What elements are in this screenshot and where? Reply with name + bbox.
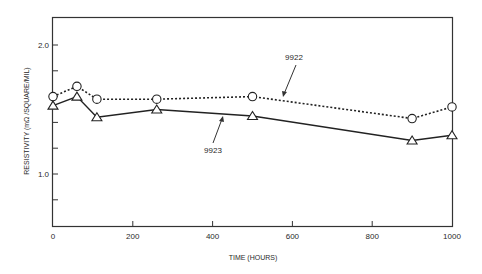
arrow-9923 (213, 119, 222, 143)
arrow-9922 (284, 65, 296, 94)
x-tick-label: 600 (286, 232, 300, 241)
circle-marker-icon (49, 92, 57, 100)
x-axis-tick-labels: 02004006008001000 (51, 232, 462, 241)
y-tick-label: 1.0 (38, 170, 50, 179)
x-tick-label: 1000 (443, 232, 461, 241)
series-label-9923: 9923 (204, 146, 222, 155)
series-label-9922: 9922 (285, 53, 303, 62)
y-axis-title: RESISTIVITY (mΩ /SQUARE/MIL) (23, 67, 31, 174)
y-axis-tick-labels: 1.02.0 (38, 41, 50, 179)
circle-marker-icon (153, 95, 161, 103)
arrowhead-9922 (282, 91, 287, 97)
circle-marker-icon (73, 82, 81, 90)
x-tick-label: 200 (126, 232, 140, 241)
triangle-marker-icon (152, 105, 162, 113)
plot-frame (53, 18, 453, 227)
series-layer (48, 82, 457, 144)
circle-marker-icon (408, 114, 416, 122)
triangle-marker-icon (48, 101, 58, 109)
resistivity-chart: 1.02.0 02004006008001000 TIME (HOURS) RE… (0, 0, 482, 274)
circle-marker-icon (248, 92, 256, 100)
y-axis-ticks (53, 45, 59, 200)
arrowhead-9923 (219, 116, 224, 122)
circle-marker-icon (448, 103, 456, 111)
x-tick-label: 0 (51, 232, 56, 241)
x-tick-label: 800 (366, 232, 380, 241)
triangle-marker-icon (72, 92, 82, 100)
x-axis-title: TIME (HOURS) (229, 254, 278, 262)
triangle-marker-icon (447, 131, 457, 139)
x-axis-ticks (133, 221, 372, 227)
y-tick-label: 2.0 (38, 41, 50, 50)
circle-marker-icon (93, 95, 101, 103)
x-tick-label: 400 (206, 232, 220, 241)
